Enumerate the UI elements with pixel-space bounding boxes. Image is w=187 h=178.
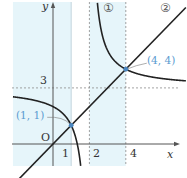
point-1-1: [69, 123, 74, 128]
x-axis-arrow-icon: [174, 142, 180, 146]
origin-label: O: [41, 131, 50, 144]
x-axis-label: x: [167, 148, 174, 161]
point-label-4-4: (4, 4): [147, 54, 175, 66]
x-tick-label-2: 2: [93, 147, 100, 160]
y-tick-label-3: 3: [40, 74, 47, 87]
x-tick-label-1: 1: [62, 147, 69, 160]
shaded-band-2: [89, 2, 125, 166]
y-axis-label: y: [41, 0, 49, 13]
shaded-bands: [13, 2, 126, 166]
point-4-4: [123, 67, 128, 72]
point-label-1-1: (1, 1): [16, 109, 44, 121]
function-graph: y x O 1 2 4 3 ① ② (1, 1) (4, 4): [0, 0, 187, 178]
x-tick-label-4: 4: [130, 147, 137, 160]
curve-1-label: ①: [103, 1, 114, 15]
curve-2-label: ②: [160, 1, 171, 15]
